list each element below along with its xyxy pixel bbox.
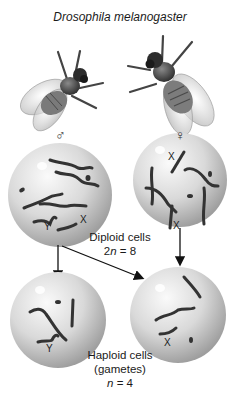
female-fly-icon [128, 36, 222, 138]
haploid-label-title: Haploid cells [60, 348, 180, 362]
diploid-label-title: Diploid cells [60, 230, 180, 244]
chromosome-label-y: Y [46, 343, 53, 354]
haploid-label-count: n = 4 [60, 376, 180, 390]
chromosome-label-x: X [168, 151, 175, 162]
male-fly-icon [14, 51, 103, 137]
haploid-label-subtitle: (gametes) [60, 362, 180, 376]
diploid-label: Diploid cells 2n = 8 [60, 230, 180, 258]
chromosome-label-x: X [80, 214, 87, 225]
meiosis-diagram: Y X X X Y [0, 0, 240, 393]
chromosome-label-y: Y [44, 221, 51, 232]
male-symbol: ♂ [55, 128, 66, 142]
chromosome-label-x: X [164, 337, 171, 348]
diploid-label-count: 2n = 8 [60, 244, 180, 258]
haploid-label: Haploid cells (gametes) n = 4 [60, 348, 180, 390]
female-diploid-cell: X X [133, 133, 227, 231]
female-symbol: ♀ [175, 128, 186, 142]
